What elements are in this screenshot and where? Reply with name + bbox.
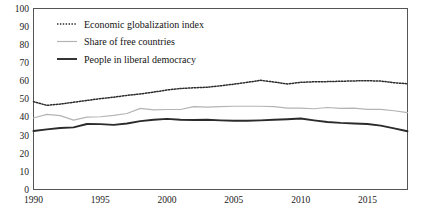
- y-tick-label: 70: [20, 58, 30, 68]
- y-tick-label: 80: [20, 40, 30, 50]
- chart-container: 0102030405060708090100 19901995200020052…: [0, 0, 421, 219]
- x-tick-label: 2005: [224, 195, 243, 205]
- series-line: [34, 119, 408, 132]
- x-tick-label: 1990: [24, 195, 43, 205]
- legend-label: Economic globalization index: [84, 19, 204, 30]
- x-tick-label: 2015: [358, 195, 377, 205]
- x-tick-label: 1995: [91, 195, 110, 205]
- legend-label: Share of free countries: [84, 36, 175, 47]
- x-axis-tick-labels: 199019952000200520102015: [24, 195, 377, 205]
- series-line: [34, 80, 408, 105]
- y-tick-label: 90: [20, 22, 30, 32]
- line-chart: 0102030405060708090100 19901995200020052…: [0, 0, 421, 219]
- y-tick-label: 0: [24, 185, 29, 195]
- y-tick-label: 100: [15, 4, 30, 14]
- series-layer: [34, 80, 408, 131]
- x-tick-label: 2000: [158, 195, 177, 205]
- chart-legend: Economic globalization indexShare of fre…: [57, 19, 204, 65]
- legend-label: People in liberal democracy: [84, 54, 196, 65]
- series-line: [34, 106, 408, 120]
- y-tick-label: 50: [20, 94, 30, 104]
- y-axis-tick-labels: 0102030405060708090100: [15, 4, 30, 195]
- y-tick-label: 10: [20, 167, 30, 177]
- x-tick-label: 2010: [291, 195, 310, 205]
- y-tick-label: 20: [20, 149, 30, 159]
- y-tick-label: 40: [20, 112, 30, 122]
- y-tick-label: 30: [20, 131, 30, 141]
- y-tick-label: 60: [20, 76, 30, 86]
